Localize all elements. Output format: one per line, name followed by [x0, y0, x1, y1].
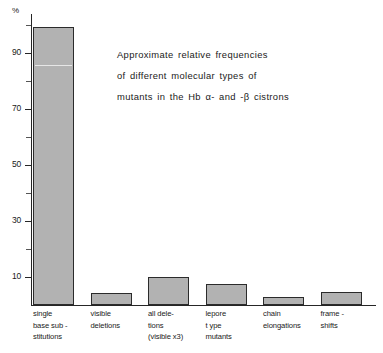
y-tick-major: 50	[25, 165, 31, 166]
y-tick-label: 90	[12, 48, 21, 57]
bar	[91, 293, 132, 305]
chart-title: Approximate relative frequencies of diff…	[117, 44, 367, 107]
y-tick-major: 70	[25, 109, 31, 110]
y-tick-label: 30	[12, 216, 21, 225]
bar	[321, 292, 362, 305]
bar	[148, 277, 189, 305]
y-tick-label: 50	[12, 160, 21, 169]
bar	[263, 297, 304, 305]
x-axis-line	[31, 305, 376, 306]
x-axis-category-label: lepore t ype mutants	[206, 308, 260, 343]
y-tick-major: 90	[25, 53, 31, 54]
x-axis-labels: single base sub - stitutionsvisible dele…	[32, 308, 376, 353]
chart-title-line-2: of different molecular types of	[117, 65, 367, 86]
y-tick-minor	[26, 137, 31, 138]
x-axis-category-label: all dele- tions (visible x3)	[148, 308, 202, 343]
y-tick-label: 10	[12, 272, 21, 281]
bar	[206, 284, 247, 305]
x-axis-category-label: visible deletions	[91, 308, 145, 331]
y-axis-unit-label: %	[12, 6, 19, 15]
y-tick-minor	[26, 249, 31, 250]
chart-title-line-3: mutants in the Hb α- and -β cistrons	[117, 86, 367, 107]
y-tick-major: 10	[25, 277, 31, 278]
bar	[33, 27, 74, 305]
y-tick-minor	[26, 81, 31, 82]
x-axis-category-label: single base sub - stitutions	[33, 308, 87, 343]
y-tick-label: 70	[12, 104, 21, 113]
x-axis-category-label: frame - shifts	[321, 308, 375, 331]
y-tick-minor	[26, 193, 31, 194]
bar-chart-figure: % 1030507090 single base sub - stitution…	[0, 0, 383, 353]
chart-title-line-1: Approximate relative frequencies	[117, 44, 367, 65]
y-tick-major: 30	[25, 221, 31, 222]
x-axis-category-label: chain elongations	[263, 308, 317, 331]
scanline-artifact	[35, 65, 72, 66]
bar-slot	[33, 14, 74, 305]
y-tick-minor	[26, 25, 31, 26]
